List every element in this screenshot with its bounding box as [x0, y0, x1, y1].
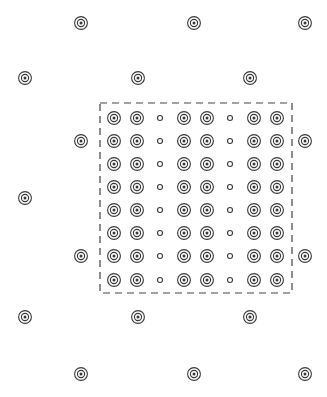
figure-background	[0, 0, 327, 397]
lattice-figure	[0, 0, 327, 397]
lattice-canvas	[0, 0, 327, 397]
